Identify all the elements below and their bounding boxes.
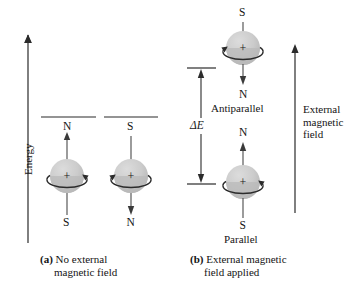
caption-b-tag: (b) bbox=[190, 253, 203, 265]
external-field-label-line1: External bbox=[303, 103, 340, 116]
antiparallel-bottom-pole: N bbox=[239, 88, 248, 100]
spin-up-top-pole: N bbox=[63, 120, 72, 132]
external-field-label-line2: magnetic bbox=[303, 116, 343, 129]
antiparallel-top-pole: S bbox=[239, 6, 246, 18]
caption-b-line1: External magnetic bbox=[206, 253, 286, 265]
antiparallel-state-label: Antiparallel bbox=[211, 102, 264, 114]
caption-a-tag: (a) bbox=[40, 253, 53, 265]
energy-axis bbox=[25, 35, 32, 243]
spin-down-top-pole: S bbox=[127, 120, 134, 132]
spin-up-nucleus-charge: + bbox=[64, 170, 71, 182]
parallel-nucleus-charge: + bbox=[240, 176, 247, 188]
caption-a: (a) No external magnetic field bbox=[40, 253, 117, 279]
caption-a-line2: magnetic field bbox=[40, 266, 117, 279]
figure-root: Energy N S + S N + S N + Antiparallel N … bbox=[0, 0, 354, 284]
spin-down-nucleus-charge: + bbox=[128, 170, 135, 182]
figure-graphics bbox=[0, 0, 354, 284]
caption-b-line2: field applied bbox=[190, 266, 287, 279]
energy-axis-label: Energy bbox=[22, 143, 34, 175]
parallel-top-pole: N bbox=[239, 126, 248, 138]
caption-a-line1: No external bbox=[56, 253, 108, 265]
spin-up-bottom-pole: S bbox=[63, 216, 70, 228]
external-field-arrow bbox=[291, 44, 298, 213]
external-field-label-line3: field bbox=[303, 128, 323, 141]
delta-e-label: ΔE bbox=[190, 119, 204, 131]
spin-down-bottom-pole: N bbox=[127, 216, 136, 228]
antiparallel-nucleus-charge: + bbox=[240, 42, 247, 54]
parallel-bottom-pole: S bbox=[240, 219, 247, 231]
caption-b: (b) External magnetic field applied bbox=[190, 253, 287, 279]
parallel-state-label: Parallel bbox=[224, 233, 258, 245]
